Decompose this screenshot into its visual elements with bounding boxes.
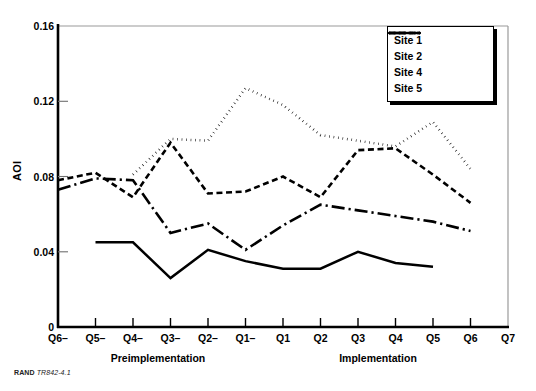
legend: Site 1 Site 2 Site 4 Site 5 [387, 26, 494, 102]
series-line-site-1 [96, 242, 434, 278]
figure-footnote: RAND TR842-4.1 [14, 369, 71, 376]
x-tick-q2: Q2 [301, 332, 341, 344]
x-tick-q3-pre: Q3– [151, 332, 191, 344]
legend-item-site-5[interactable]: Site 5 [394, 80, 487, 96]
legend-label-site-2: Site 2 [394, 51, 422, 62]
series-group [58, 88, 471, 278]
legend-label-site-4: Site 4 [394, 67, 422, 78]
x-tick-q5: Q5 [413, 332, 453, 344]
period-label-preimplementation: Preimplementation [58, 352, 258, 364]
y-tickmarks [58, 101, 68, 252]
footnote-id: TR842-4.1 [37, 369, 71, 376]
x-tickmarks [96, 318, 471, 327]
figure-root: AOI 0 0.04 0.08 0.12 0.16 [0, 0, 536, 391]
x-tick-q2-pre: Q2– [188, 332, 228, 344]
x-tick-q4-pre: Q4– [113, 332, 153, 344]
x-tick-q6: Q6 [451, 332, 491, 344]
x-tick-q5-pre: Q5– [76, 332, 116, 344]
x-tick-q3: Q3 [338, 332, 378, 344]
legend-item-site-4[interactable]: Site 4 [394, 64, 487, 80]
series-line-site-4 [58, 143, 471, 203]
x-tick-q6-pre: Q6– [38, 332, 78, 344]
legend-item-site-2[interactable]: Site 2 [394, 48, 487, 64]
period-label-implementation: Implementation [278, 352, 478, 364]
legend-swatch-dash-dot [388, 27, 421, 39]
x-tick-q1-pre: Q1– [226, 332, 266, 344]
x-tick-q4: Q4 [376, 332, 416, 344]
legend-label-site-5: Site 5 [394, 83, 422, 94]
x-tick-q7: Q7 [488, 332, 528, 344]
footnote-brand: RAND [14, 369, 35, 376]
x-tick-q1: Q1 [263, 332, 303, 344]
